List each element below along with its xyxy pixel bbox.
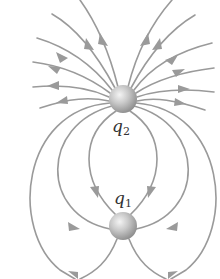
charge-q1-sphere [109,212,137,240]
electric-field-diagram: q2 q1 [0,0,220,279]
charge-q1-label: q1 [114,190,132,209]
field-lines-canvas [0,0,220,279]
charge-q2-sphere [109,85,137,113]
charge-q2-label: q2 [112,118,130,137]
